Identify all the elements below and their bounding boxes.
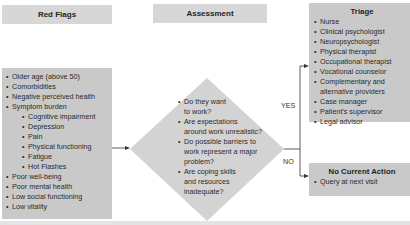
list-item-continuation: inadequate?: [178, 187, 288, 197]
no-action-list: Query at next visit: [314, 177, 410, 187]
list-item: Vocational counselor: [314, 67, 410, 77]
assessment-questions: Do they want to work? Are expectations a…: [178, 97, 288, 197]
list-item-continuation: to work?: [178, 107, 288, 117]
no-label: NO: [283, 157, 294, 166]
arrow-right-icon: [125, 146, 130, 150]
list-item-continuation: and resources: [178, 177, 288, 187]
list-item-continuation: around work unrealistic?: [178, 127, 288, 137]
list-item: Do they want: [178, 97, 288, 107]
yes-label: YES: [281, 101, 295, 110]
list-item: Are coping skills: [178, 167, 288, 177]
list-item: Legal advisor: [314, 117, 410, 127]
list-item: Nurse: [314, 17, 410, 27]
list-item-continuation: alternative providers: [314, 87, 410, 97]
list-item: Patient's supervisor: [314, 107, 410, 117]
list-item: Neuropsychologist: [314, 37, 410, 47]
list-item: Do possible barriers to: [178, 137, 288, 147]
list-item-continuation: problem?: [178, 157, 288, 167]
triage-box: Triage Nurse Clinical psychologist Neuro…: [309, 3, 410, 122]
list-item-continuation: work represent a major: [178, 147, 288, 157]
list-item: Occupational therapist: [314, 57, 410, 67]
no-action-box: No Current Action Query at next visit: [309, 163, 410, 196]
list-item: Query at next visit: [314, 177, 410, 187]
no-action-title: No Current Action: [314, 166, 410, 177]
list-item: Physical therapist: [314, 47, 410, 57]
list-item: Are expectations: [178, 117, 288, 127]
list-item: Complementary and: [314, 77, 410, 87]
triage-list: Nurse Clinical psychologist Neuropsychol…: [314, 17, 410, 127]
list-item: Case manager: [314, 97, 410, 107]
list-item: Clinical psychologist: [314, 27, 410, 37]
triage-title: Triage: [314, 6, 410, 17]
bottom-band: [0, 221, 410, 225]
